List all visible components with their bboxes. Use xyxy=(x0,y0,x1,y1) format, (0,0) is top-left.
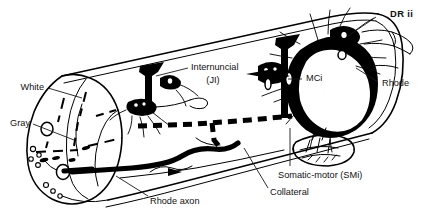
label-rhode-right: Rhode xyxy=(382,78,409,88)
label-collateral: Collateral xyxy=(270,187,309,197)
label-white: White xyxy=(21,82,45,92)
collateral-branch-dashed xyxy=(138,116,292,150)
label-gray: Gray xyxy=(10,118,30,128)
label-internuncial-abbrev: (JI) xyxy=(206,75,219,85)
label-rhode-axon: Rhode axon xyxy=(150,196,200,206)
label-mci: MCi xyxy=(306,73,322,83)
rohde-giant-axon xyxy=(64,143,238,172)
label-internuncial: Internuncial xyxy=(191,62,239,72)
spinal-cord-diagram: DR ii Rhode Internuncial (JI) MCi White … xyxy=(0,0,441,221)
label-somatic-motor: Somatic-motor (SMi) xyxy=(278,170,362,180)
label-dr-ii: DR ii xyxy=(390,8,413,19)
diagram-canvas: DR ii Rhode Internuncial (JI) MCi White … xyxy=(0,0,441,221)
